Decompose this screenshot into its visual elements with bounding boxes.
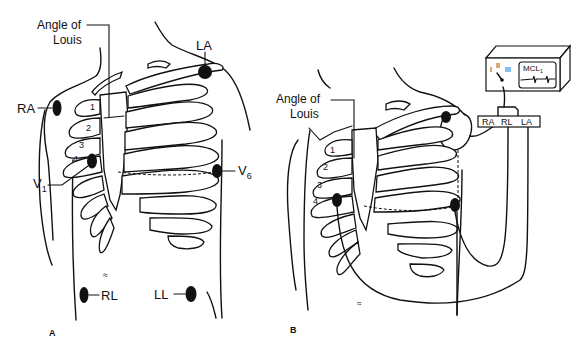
angle-of-louis-label-line1: Angle of xyxy=(37,18,82,32)
electrode-b-shoulder xyxy=(441,111,451,123)
ecg-lead-placement-diagram: ≈ 1 2 3 4 Angle of Louis RA LA V1 V6 RL xyxy=(0,0,588,350)
ecg-monitor: MCL1 I II III xyxy=(486,46,570,107)
electrode-v1 xyxy=(87,154,97,169)
left-ribs-b xyxy=(374,127,460,277)
angle-of-louis-label-line2: Louis xyxy=(53,33,82,47)
electrode-label-rl: RL xyxy=(101,288,118,303)
angle-of-louis-label-b-line1: Angle of xyxy=(276,92,321,106)
navel-mark-b: ≈ xyxy=(357,299,362,308)
electrode-label-ll: LL xyxy=(154,287,168,302)
panel-a: ≈ 1 2 3 4 Angle of Louis RA LA V1 V6 RL xyxy=(17,18,252,338)
rib-number-4: 4 xyxy=(73,154,78,164)
electrode-b-lateral xyxy=(450,198,460,212)
electrode-label-ra: RA xyxy=(17,101,35,116)
electrode-label-v6: V6 xyxy=(238,163,252,181)
panel-label-a: A xyxy=(49,328,56,338)
electrode-ll xyxy=(186,286,197,302)
sternum-b xyxy=(352,128,378,230)
navel-mark: ≈ xyxy=(103,270,108,280)
connector-label-ra: RA xyxy=(482,117,495,127)
panel-b: ≈ 1 2 3 4 Angle of Louis RA RL LA MCL1 xyxy=(276,46,570,335)
rib-number-2: 2 xyxy=(86,123,91,133)
electrode-v6 xyxy=(212,164,222,178)
electrode-la xyxy=(198,65,212,79)
connector-label-la: LA xyxy=(521,117,532,127)
rib-number-2-b: 2 xyxy=(323,162,328,172)
electrode-ra xyxy=(53,100,62,116)
lead-selector-ii: II xyxy=(496,62,500,69)
left-ribs xyxy=(122,84,219,248)
connector-label-rl: RL xyxy=(501,117,513,127)
angle-of-louis-label-b-line2: Louis xyxy=(290,107,319,121)
rib-number-1: 1 xyxy=(90,102,95,112)
rib-number-3: 3 xyxy=(79,140,84,150)
rib-number-1-b: 1 xyxy=(330,145,335,155)
monitor-cable xyxy=(503,87,505,107)
lead-selector-i: I xyxy=(490,66,492,73)
electrode-b-mcl1 xyxy=(332,193,342,207)
electrode-rl xyxy=(80,287,89,303)
rib-number-4-b: 4 xyxy=(313,196,318,206)
panel-label-b: B xyxy=(290,325,297,335)
lead-selector-iii: III xyxy=(505,66,511,73)
rib-number-3-b: 3 xyxy=(317,180,322,190)
electrode-label-la: LA xyxy=(196,38,212,53)
